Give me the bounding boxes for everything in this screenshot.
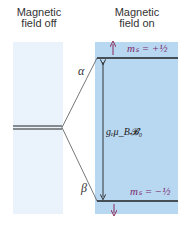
beta-label: β [81,183,87,194]
upper-ms-label: mₛ = +½ [127,43,168,54]
alpha-label: α [78,66,84,77]
split-line-beta [62,128,97,202]
lower-ms-label: mₛ = −½ [130,186,171,197]
field-off-panel [13,42,63,214]
splitting-energy-label: gₑμ_B𝓑₀ [106,126,142,137]
